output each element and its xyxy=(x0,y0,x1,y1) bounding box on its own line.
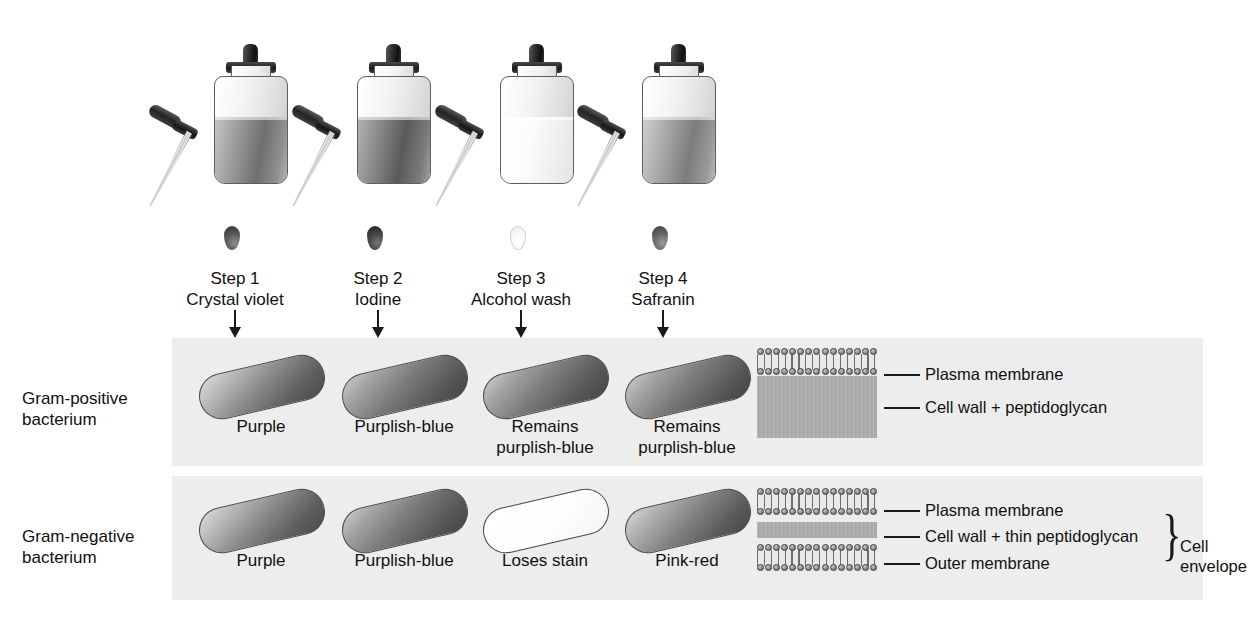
step-arrow-4 xyxy=(568,310,758,338)
leader-line-plasma-membrane-neg xyxy=(884,510,920,512)
bacterium-rod xyxy=(337,484,472,558)
label-plasma-membrane-pos: Plasma membrane xyxy=(925,364,1063,384)
gram-negative-result-3: Loses stain xyxy=(470,494,620,590)
gram-positive-result-1: Purple xyxy=(186,360,336,456)
arrow-head-icon xyxy=(229,327,241,338)
label-cell-wall-thin-peptidoglycan: Cell wall + thin peptidoglycan xyxy=(925,526,1138,546)
gram-positive-result-3: Remains purplish-blue xyxy=(470,360,620,456)
caption-line1: Purplish-blue xyxy=(354,551,453,570)
bacterium-rod xyxy=(478,484,613,558)
lipid-head-row-top xyxy=(757,348,877,356)
caption-line1: Purple xyxy=(236,417,285,436)
plasma-membrane-bilayer xyxy=(757,488,877,516)
label-cell-envelope: Cell envelope xyxy=(1180,536,1247,576)
reagent-droplet-2 xyxy=(367,226,383,250)
bacterium-rod xyxy=(194,350,329,424)
leader-line-outer-membrane xyxy=(884,563,920,565)
result-caption: Pink-red xyxy=(612,550,762,571)
gram-negative-result-1: Purple xyxy=(186,494,336,590)
arrow-head-icon xyxy=(657,327,669,338)
step-number-4: Step 4 xyxy=(568,268,758,289)
bacterium-rod xyxy=(194,484,329,558)
pipette-stem xyxy=(147,130,193,207)
result-caption: Loses stain xyxy=(470,550,620,571)
row-label-line2: bacterium xyxy=(22,410,97,429)
dropper-pipette-4 xyxy=(574,104,660,244)
caption-line1: Loses stain xyxy=(502,551,588,570)
result-caption: Remains purplish-blue xyxy=(612,416,762,458)
cell-envelope-line2: envelope xyxy=(1180,556,1247,576)
result-caption: Purplish-blue xyxy=(329,416,479,437)
result-caption: Purplish-blue xyxy=(329,550,479,571)
result-caption: Purple xyxy=(186,416,336,437)
result-caption: Remains purplish-blue xyxy=(470,416,620,458)
row-label-line2: bacterium xyxy=(22,548,97,567)
row-label-gram-negative: Gram-negative bacterium xyxy=(22,526,172,568)
lipid-head-row-bottom xyxy=(757,564,877,572)
dropper-pipette-1 xyxy=(146,104,232,244)
caption-line1: Remains xyxy=(511,417,578,436)
reagent-droplet-3 xyxy=(510,226,526,250)
bacterium-rod xyxy=(478,350,613,424)
cell-envelope-line1: Cell xyxy=(1180,537,1208,555)
label-cell-wall-peptidoglycan: Cell wall + peptidoglycan xyxy=(925,397,1107,417)
outer-membrane-bilayer xyxy=(757,544,877,572)
gram-stain-figure: Step 1 Crystal violet Step 2 Iodine xyxy=(0,0,1254,623)
lipid-head-row-bottom xyxy=(757,508,877,516)
gram-negative-result-4: Pink-red xyxy=(612,494,762,590)
lipid-head-row-bottom xyxy=(757,368,877,376)
caption-line1: Purplish-blue xyxy=(354,417,453,436)
reagent-column-4 xyxy=(568,18,758,308)
caption-line1: Remains xyxy=(653,417,720,436)
pipette-stem xyxy=(433,130,479,207)
dropper-pipette-3 xyxy=(432,104,518,244)
row-label-line1: Gram-positive xyxy=(22,389,128,408)
gram-negative-result-2: Purplish-blue xyxy=(329,494,479,590)
row-label-gram-positive: Gram-positive bacterium xyxy=(22,388,172,430)
bacterium-rod xyxy=(620,350,755,424)
gram-positive-result-2: Purplish-blue xyxy=(329,360,479,456)
bacterium-rod xyxy=(620,484,755,558)
dropper-pipette-2 xyxy=(289,104,375,244)
label-plasma-membrane-neg: Plasma membrane xyxy=(925,500,1063,520)
gram-negative-envelope xyxy=(757,488,877,572)
leader-line-peptidoglycan-pos xyxy=(884,407,920,409)
arrow-head-icon xyxy=(515,327,527,338)
lipid-head-row-top xyxy=(757,488,877,496)
pipette-stem xyxy=(290,130,336,207)
label-outer-membrane: Outer membrane xyxy=(925,553,1050,573)
reagent-droplet-1 xyxy=(224,226,240,250)
caption-line2: purplish-blue xyxy=(470,437,620,458)
arrow-head-icon xyxy=(372,327,384,338)
step-reagent-4: Safranin xyxy=(568,289,758,310)
caption-line2: purplish-blue xyxy=(612,437,762,458)
pipette-stem xyxy=(575,130,621,207)
gram-positive-result-4: Remains purplish-blue xyxy=(612,360,762,456)
bacterium-rod xyxy=(337,350,472,424)
result-caption: Purple xyxy=(186,550,336,571)
step-label-4: Step 4 Safranin xyxy=(568,268,758,310)
caption-line1: Pink-red xyxy=(655,551,718,570)
leader-line-thin-peptidoglycan xyxy=(884,536,920,538)
plasma-membrane-bilayer xyxy=(757,348,877,376)
leader-line-plasma-membrane-pos xyxy=(884,374,920,376)
lipid-head-row-top xyxy=(757,544,877,552)
gram-positive-envelope xyxy=(757,348,877,438)
caption-line1: Purple xyxy=(236,551,285,570)
reagent-droplet-4 xyxy=(652,226,668,250)
peptidoglycan-layer xyxy=(757,376,877,438)
thin-peptidoglycan-layer xyxy=(757,522,877,538)
cell-envelope-brace-icon: } xyxy=(1162,506,1181,564)
row-label-line1: Gram-negative xyxy=(22,527,134,546)
